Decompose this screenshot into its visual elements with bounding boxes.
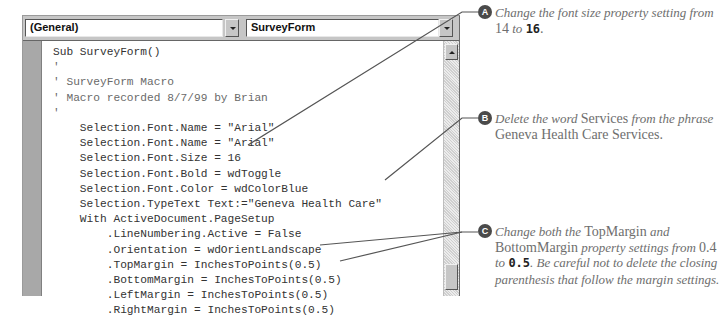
combo-bar: (General) SurveyForm [23,16,459,40]
callout-text-segment: 0.4 [699,240,717,255]
code-line[interactable]: .LineNumbering.Active = False [53,227,382,242]
object-combo-value: (General) [30,21,78,33]
callout-text-segment: . [540,21,544,36]
object-combo[interactable]: (General) [25,19,223,37]
code-line[interactable]: ' Macro recorded 8/7/99 by Brian [53,91,382,106]
code-line[interactable]: Selection.Font.Color = wdColorBlue [53,182,382,197]
callout-text-segment: Services [581,111,628,126]
margin-indicator-bar[interactable] [23,41,42,296]
code-text[interactable]: Sub SurveyForm()'' SurveyForm Macro' Mac… [53,45,382,319]
procedure-combo[interactable]: SurveyForm [246,19,439,37]
callout-badge-a: A [478,5,492,19]
code-line[interactable]: ' SurveyForm Macro [53,75,382,90]
callout-a: A Change the font size property setting … [495,5,725,37]
code-line[interactable]: Sub SurveyForm() [53,45,382,60]
vba-code-window: (General) SurveyForm Sub SurveyForm()'' … [22,15,460,296]
callout-text-segment: from the phrase [628,111,713,126]
code-line[interactable]: Selection.Font.Name = "Arial" [53,121,382,136]
code-line[interactable]: With ActiveDocument.PageSetup [53,212,382,227]
callout-text-segment: BottomMargin [495,240,578,255]
code-line[interactable]: .LeftMargin = InchesToPoints(0.5) [53,288,382,303]
callout-b-text: Delete the word Services from the phrase… [495,111,713,142]
code-line[interactable]: Selection.TypeText Text:="Geneva Health … [53,197,382,212]
callout-text-segment: property settings from [578,240,699,255]
callout-text-segment: Geneva Health Care Services. [495,127,663,142]
callout-text-segment: Change the font size property setting fr… [495,5,714,20]
callout-c: C Change both the TopMargin and BottomMa… [495,224,725,287]
procedure-combo-dropdown-icon[interactable] [439,19,453,37]
callout-a-text: Change the font size property setting fr… [495,5,714,36]
code-editor[interactable]: Sub SurveyForm()'' SurveyForm Macro' Mac… [23,40,459,296]
callout-badge-c: C [478,224,492,238]
callout-text-segment: Delete the word [495,111,581,126]
callout-text-segment: 16 [526,22,540,36]
code-line[interactable]: .RightMargin = InchesToPoints(0.5) [53,303,382,318]
callout-b: B Delete the word Services from the phra… [495,111,725,142]
callout-text-segment: Change both the [495,224,584,239]
object-combo-dropdown-icon[interactable] [225,19,239,37]
code-line[interactable]: .TopMargin = InchesToPoints(0.5) [53,258,382,273]
vertical-scrollbar[interactable] [443,41,459,296]
callout-text-segment: 14 [495,21,509,36]
code-line[interactable]: Selection.Font.Size = 16 [53,151,382,166]
scroll-thumb[interactable] [445,264,458,290]
callout-text-segment: 0.5 [508,256,530,270]
callout-badge-b: B [478,111,492,125]
code-line[interactable]: Selection.Font.Bold = wdToggle [53,167,382,182]
callout-text-segment: and [647,224,670,239]
scroll-up-icon[interactable] [445,44,458,60]
callout-text-segment: to [509,21,526,36]
code-line[interactable]: ' [53,60,382,75]
procedure-combo-value: SurveyForm [251,21,315,33]
callout-c-text: Change both the TopMargin and BottomMarg… [495,224,719,287]
code-line[interactable]: .Orientation = wdOrientLandscape [53,243,382,258]
callout-text-segment: TopMargin [584,224,647,239]
code-line[interactable]: .BottomMargin = InchesToPoints(0.5) [53,273,382,288]
code-line[interactable]: Selection.Font.Name = "Arial" [53,136,382,151]
code-line[interactable]: ' [53,106,382,121]
callout-text-segment: to [495,255,508,270]
